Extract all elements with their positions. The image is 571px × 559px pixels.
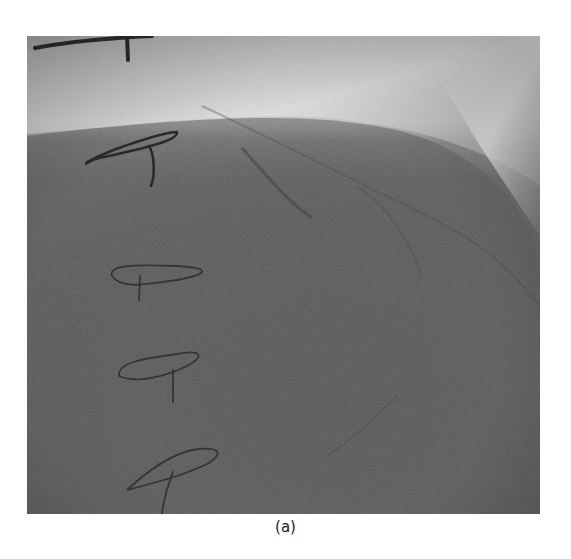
angiography-image xyxy=(27,36,540,514)
xray-overlay xyxy=(27,36,540,514)
figure: (a) xyxy=(0,0,571,559)
figure-caption: (a) xyxy=(0,518,571,536)
